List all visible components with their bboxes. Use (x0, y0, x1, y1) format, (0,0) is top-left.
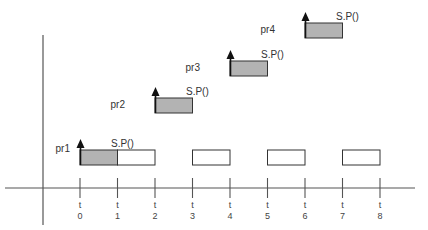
process-label: pr3 (186, 62, 201, 73)
idle-slot (268, 150, 306, 165)
tick-t5: t5 (265, 178, 270, 221)
tick-prefix: t (154, 200, 157, 210)
idle-slot (118, 150, 156, 165)
tick-t2: t2 (152, 178, 157, 221)
release-arrow-icon (302, 12, 310, 21)
tick-prefix: t (266, 200, 269, 210)
tick-prefix: t (379, 200, 382, 210)
tick-label: 3 (190, 211, 195, 221)
process-pr2: pr2S.P() (111, 86, 209, 113)
process-pr1: pr1S.P() (56, 138, 380, 165)
time-ticks: t0t1t2t3t4t5t6t7t8 (77, 178, 382, 221)
process-pr4: pr4S.P() (261, 11, 359, 38)
tick-prefix: t (191, 200, 194, 210)
tick-label: 0 (77, 211, 82, 221)
tick-label: 8 (377, 211, 382, 221)
tick-prefix: t (341, 200, 344, 210)
tick-t7: t7 (340, 178, 345, 221)
idle-slot (193, 150, 231, 165)
executed-slot (155, 98, 193, 113)
tick-label: 2 (152, 211, 157, 221)
tick-t1: t1 (115, 178, 120, 221)
semaphore-p-label: S.P() (336, 11, 359, 22)
executed-slot (305, 23, 343, 38)
semaphore-p-label: S.P() (111, 138, 134, 149)
tick-label: 6 (302, 211, 307, 221)
tick-prefix: t (304, 200, 307, 210)
idle-slot (343, 150, 381, 165)
release-arrow-icon (77, 139, 85, 148)
tick-label: 7 (340, 211, 345, 221)
tick-prefix: t (116, 200, 119, 210)
tick-t8: t8 (377, 178, 382, 221)
timeline-diagram: t0t1t2t3t4t5t6t7t8 pr1S.P()pr2S.P()pr3S.… (0, 0, 428, 230)
semaphore-p-label: S.P() (261, 49, 284, 60)
process-label: pr2 (111, 99, 126, 110)
release-arrow-icon (227, 50, 235, 59)
process-pr3: pr3S.P() (186, 49, 284, 76)
tick-t3: t3 (190, 178, 195, 221)
tick-prefix: t (229, 200, 232, 210)
tick-t4: t4 (227, 178, 232, 221)
tick-label: 4 (227, 211, 232, 221)
semaphore-p-label: S.P() (186, 86, 209, 97)
process-rows: pr1S.P()pr2S.P()pr3S.P()pr4S.P() (56, 11, 380, 165)
tick-t0: t0 (77, 178, 82, 221)
tick-t6: t6 (302, 178, 307, 221)
tick-prefix: t (79, 200, 82, 210)
process-label: pr1 (56, 143, 71, 154)
release-arrow-icon (152, 87, 160, 96)
process-label: pr4 (261, 24, 276, 35)
executed-slot (230, 61, 268, 76)
tick-label: 5 (265, 211, 270, 221)
executed-slot (80, 150, 118, 165)
tick-label: 1 (115, 211, 120, 221)
